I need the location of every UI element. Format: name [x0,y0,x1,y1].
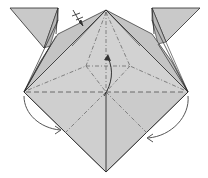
pleat-mark-icon [72,10,83,26]
diagram-svg [0,0,208,178]
origami-diagram: Origami step: square-based model with tw… [0,0,208,178]
right-ear-flap [152,8,200,44]
left-ear-flap [10,8,58,48]
